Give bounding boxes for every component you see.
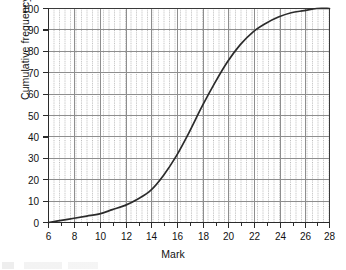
x-tick-label: 6 [46, 231, 52, 242]
x-tick-label: 14 [146, 231, 158, 242]
y-tick-label: 20 [28, 175, 40, 186]
x-tick-label: 24 [275, 231, 287, 242]
y-tick-label: 80 [28, 46, 40, 57]
y-tick-label: 60 [28, 89, 40, 100]
x-axis [48, 223, 330, 228]
page-artifact [2, 262, 152, 269]
y-axis [43, 8, 49, 223]
y-tick-label: 40 [28, 132, 40, 143]
x-tick-label: 8 [72, 231, 78, 242]
x-tick-label: 12 [121, 231, 133, 242]
y-tick-label: 100 [22, 4, 39, 15]
x-tick-label: 10 [95, 231, 107, 242]
y-tick-label: 0 [33, 218, 39, 229]
y-tick-labels: 100 90 80 70 60 50 40 30 20 10 0 [22, 4, 39, 229]
x-tick-label: 22 [249, 231, 261, 242]
y-tick-label: 70 [28, 68, 40, 79]
x-tick-label: 16 [172, 231, 184, 242]
x-tick-label: 28 [324, 231, 336, 242]
y-tick-label: 90 [28, 25, 40, 36]
plot-area-svg: 100 90 80 70 60 50 40 30 20 10 0 6 8 10 … [0, 0, 346, 270]
cumulative-frequency-chart: Cumulative frequency % [0, 0, 346, 270]
y-tick-label: 30 [28, 153, 40, 164]
x-tick-label: 20 [223, 231, 235, 242]
x-axis-title: Mark [0, 248, 346, 260]
x-tick-labels: 6 8 10 12 14 16 18 20 22 24 26 28 [46, 231, 336, 242]
x-tick-label: 26 [300, 231, 312, 242]
x-tick-label: 18 [198, 231, 210, 242]
y-tick-label: 50 [28, 111, 40, 122]
y-tick-label: 10 [28, 196, 40, 207]
